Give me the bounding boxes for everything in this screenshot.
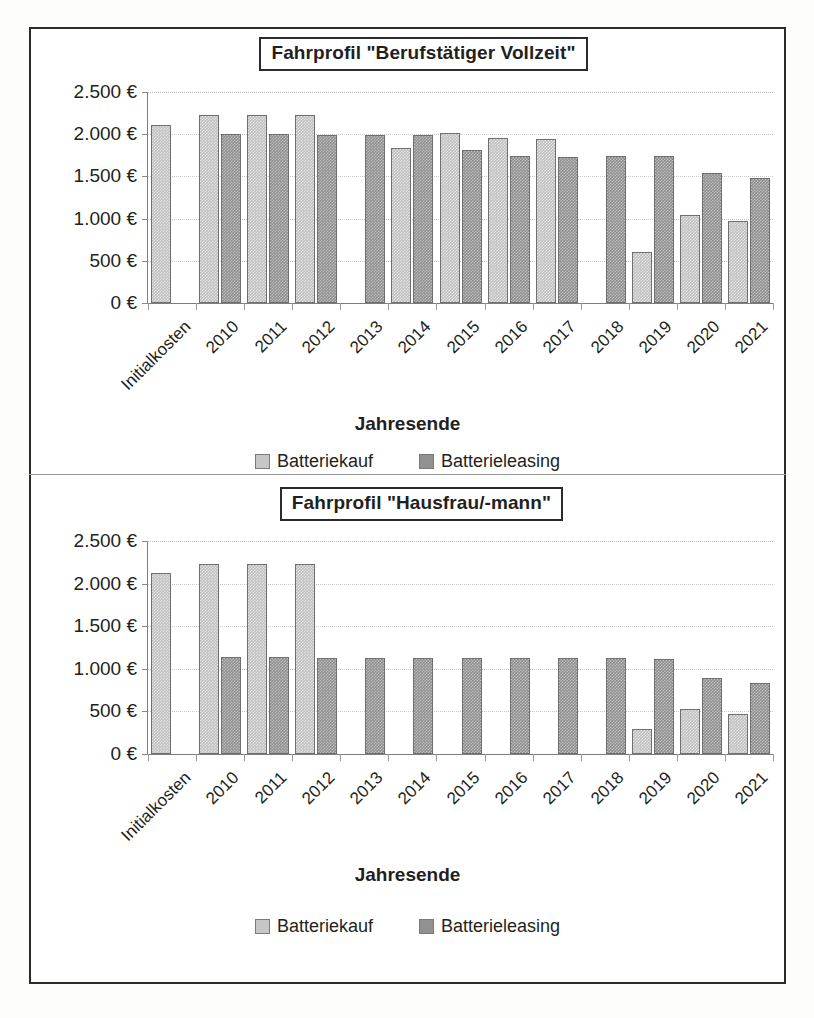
x-axis-category-label: 2021 [731, 317, 772, 358]
bar [702, 173, 722, 303]
bar [488, 138, 508, 303]
bar [750, 683, 770, 754]
x-axis-category-label: 2010 [202, 317, 243, 358]
x-axis-category-label: 2012 [299, 317, 340, 358]
bar [510, 658, 530, 754]
y-axis-tick-label: 0 € [111, 743, 137, 765]
x-axis-tick [148, 754, 149, 761]
bar [728, 221, 748, 303]
chart-panel-hausfrau-mann: Fahrprofil "Hausfrau/-mann" 0 €500 €1.00… [29, 476, 786, 982]
bar [558, 658, 578, 754]
legend-swatch-icon [419, 454, 434, 469]
legend-item[interactable]: Batteriekauf [255, 451, 373, 472]
y-axis-tick-label: 1.500 € [74, 615, 137, 637]
x-axis-title: Jahresende [29, 864, 786, 886]
x-axis-tick [196, 754, 197, 761]
x-axis-tick [629, 303, 630, 310]
bar [247, 115, 267, 303]
x-axis-tick [773, 303, 774, 310]
legend-item[interactable]: Batterieleasing [419, 451, 560, 472]
bar [269, 657, 289, 754]
gridline [148, 541, 773, 542]
bar [413, 658, 433, 754]
bar [151, 125, 171, 303]
y-axis-tick-label: 2.500 € [74, 81, 137, 103]
gridline [148, 134, 773, 135]
y-axis-tick-label: 1.500 € [74, 165, 137, 187]
x-axis-tick [388, 303, 389, 310]
bar [558, 157, 578, 303]
legend-item[interactable]: Batteriekauf [255, 916, 373, 937]
x-axis-tick [485, 303, 486, 310]
legend-label: Batterieleasing [441, 916, 560, 937]
x-axis-category-label: 2014 [395, 768, 436, 809]
x-axis-tick [388, 754, 389, 761]
x-axis-category-label: 2017 [539, 768, 580, 809]
bar [680, 709, 700, 754]
y-axis-tick [142, 261, 148, 262]
bar [632, 729, 652, 754]
bar [365, 658, 385, 754]
bar [606, 156, 626, 303]
bar [632, 252, 652, 303]
x-axis-category-label: 2019 [635, 317, 676, 358]
bar [295, 115, 315, 303]
bar [317, 658, 337, 754]
gridline [148, 92, 773, 93]
x-axis-category-label: 2011 [251, 317, 291, 357]
x-axis-tick [340, 754, 341, 761]
x-axis-tick [148, 303, 149, 310]
bar [221, 657, 241, 754]
gridline [148, 176, 773, 177]
plot-area [147, 541, 773, 755]
y-axis-tick [142, 134, 148, 135]
x-axis-tick [533, 754, 534, 761]
y-axis-labels: 0 €500 €1.000 €1.500 €2.000 €2.500 € [29, 541, 137, 754]
y-axis-tick [142, 626, 148, 627]
bar [462, 150, 482, 303]
x-axis-tick [581, 754, 582, 761]
x-axis-tick [581, 303, 582, 310]
bar [295, 564, 315, 754]
y-axis-tick-label: 2.000 € [74, 123, 137, 145]
x-axis-category-label: Initialkosten [118, 768, 196, 846]
bar [728, 714, 748, 754]
legend-label: Batteriekauf [277, 916, 373, 937]
y-axis-tick-label: 1.000 € [74, 658, 137, 680]
y-axis-tick [142, 711, 148, 712]
x-axis-tick [533, 303, 534, 310]
bar [247, 564, 267, 754]
x-axis-category-label: 2015 [443, 317, 484, 358]
y-axis-tick [142, 176, 148, 177]
x-axis-tick [436, 303, 437, 310]
x-axis-category-label: 2016 [491, 317, 532, 358]
chart-legend: BatteriekaufBatterieleasing [29, 451, 786, 472]
bar [440, 133, 460, 303]
legend-swatch-icon [255, 454, 270, 469]
chart-title: Fahrprofil "Hausfrau/-mann" [280, 487, 563, 521]
bar [221, 134, 241, 303]
bar [199, 115, 219, 303]
x-axis-category-label: 2018 [587, 768, 628, 809]
legend-item[interactable]: Batterieleasing [419, 916, 560, 937]
y-axis-tick [142, 219, 148, 220]
plot-area [147, 92, 773, 304]
x-axis-tick [292, 754, 293, 761]
gridline [148, 626, 773, 627]
chart-legend: BatteriekaufBatterieleasing [29, 916, 786, 937]
gridline [148, 669, 773, 670]
y-axis-tick [142, 541, 148, 542]
figure-page: Fahrprofil "Berufstätiger Vollzeit" 0 €5… [0, 0, 814, 1018]
bar [750, 178, 770, 303]
bar [536, 139, 556, 303]
bar [317, 135, 337, 303]
x-axis-tick [725, 754, 726, 761]
x-axis-tick [340, 303, 341, 310]
bar [462, 658, 482, 754]
bar [269, 134, 289, 303]
y-axis-tick-label: 500 € [89, 250, 137, 272]
bar [680, 215, 700, 303]
x-axis-tick [677, 303, 678, 310]
x-axis-category-label: 2010 [202, 768, 243, 809]
bar [702, 678, 722, 754]
